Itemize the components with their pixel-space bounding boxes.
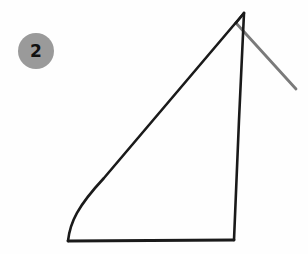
triangle-bottom-edge [68,240,234,241]
figure-number-badge: 2 [18,33,54,69]
badge-number-label: 2 [18,33,54,69]
